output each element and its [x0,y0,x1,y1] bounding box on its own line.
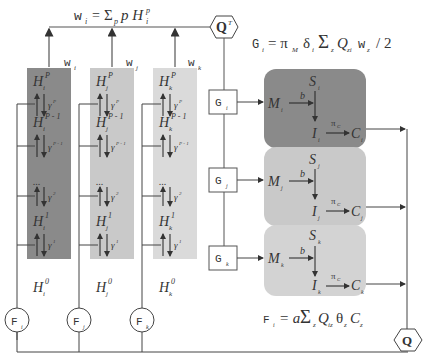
svg-text:C: C [351,126,361,141]
svg-text:γ: γ [48,192,52,202]
svg-text:...: ... [33,176,41,187]
svg-text:δ: δ [303,35,310,51]
svg-text:0: 0 [108,277,112,286]
svg-text:i: i [273,322,275,328]
svg-text:P - 1: P - 1 [115,141,126,146]
svg-text:b: b [300,168,305,179]
svg-text:γ: γ [111,100,115,110]
svg-text:1: 1 [116,239,119,244]
svg-text:p H: p H [120,7,144,23]
svg-text:w: w [64,57,71,69]
svg-text:1: 1 [108,211,112,220]
svg-text:j: j [317,163,320,169]
svg-text:...: ... [96,176,104,187]
svg-text:j: j [82,324,85,330]
qt-hexagon: Q T [210,16,238,38]
svg-text:j: j [225,183,228,189]
svg-text:P: P [52,99,56,104]
svg-text:γ: γ [48,100,52,110]
svg-text:k: k [146,324,149,330]
svg-text:C: C [351,278,361,293]
svg-text:γ: γ [111,142,115,152]
svg-text:P - 1: P - 1 [170,112,186,121]
g-box-k: G k [209,246,237,270]
sector-i: S i M i b I i π C C i [264,69,366,148]
svg-text:Q: Q [402,333,412,348]
svg-text:z: z [312,321,316,329]
svg-text:w: w [188,57,195,69]
svg-text:k: k [226,261,229,267]
svg-text:i: i [43,290,45,298]
svg-text:/ 2: / 2 [376,35,391,51]
svg-text:j: j [105,224,108,232]
svg-text:p: p [145,6,150,15]
f-circle-i: F i [5,308,29,332]
svg-text:i: i [146,17,148,26]
svg-text:b: b [300,90,305,101]
svg-text:C: C [351,204,361,219]
svg-text:G: G [215,175,222,187]
svg-text:k: k [198,64,202,72]
svg-text:P - 1: P - 1 [44,112,60,121]
svg-text:b: b [300,245,305,256]
c-output-lines [366,129,407,330]
svg-text:j: j [105,125,108,133]
svg-text:zi: zi [346,46,352,54]
f-circle-j: F j [67,308,91,332]
svg-text:i: i [43,125,45,133]
svg-text:j: j [280,185,283,191]
svg-text:1: 1 [45,211,49,220]
svg-text:F: F [73,316,80,328]
column-k [153,68,197,259]
svg-text:S: S [309,152,316,167]
svg-text:1: 1 [53,239,56,244]
svg-text:M: M [267,174,281,189]
svg-text:z: z [330,46,334,54]
svg-text:P: P [115,99,119,104]
svg-text:γ: γ [48,142,52,152]
svg-text:P - 1: P - 1 [178,141,189,146]
g-box-i: G i [209,90,237,114]
svg-text:γ: γ [111,240,115,250]
svg-text:z: z [343,321,347,329]
svg-text:j: j [135,64,138,72]
svg-text:= a: = a [279,310,300,326]
svg-text:γ: γ [174,142,178,152]
f-circle-k: F k [130,308,154,332]
svg-text:Σ: Σ [300,306,311,327]
svg-text:P: P [44,71,50,80]
svg-text:F: F [136,316,143,328]
svg-text:Σ: Σ [104,7,113,23]
svg-text:j: j [360,215,363,221]
svg-text:π: π [331,118,336,128]
g-box-j: G j [209,168,237,192]
svg-text:F: F [263,314,270,326]
svg-text:γ: γ [174,100,178,110]
svg-text:Σ: Σ [318,31,329,52]
svg-text:w: w [74,9,82,24]
economic-model-diagram: w i = Σ p p H p i Q T w i w j w k H P i [0,0,431,362]
svg-text:j: j [105,290,108,298]
svg-text:γ: γ [174,192,178,202]
svg-text:z: z [366,46,370,54]
svg-text:...: ... [159,176,167,187]
svg-text:z: z [359,321,363,329]
svg-text:P - 1: P - 1 [107,112,123,121]
svg-text:= π: = π [268,35,288,51]
sector-k: S k M k b I k π C C k [264,225,366,296]
svg-text:k: k [318,239,321,245]
svg-text:i: i [43,224,45,232]
svg-text:S: S [309,228,316,243]
svg-text:θ: θ [336,310,343,326]
svg-text:i: i [262,46,264,54]
svg-text:j: j [105,84,108,92]
svg-text:p: p [113,17,118,26]
f-formula: F i = a Σ z Q iz θ z C z [263,306,363,329]
svg-text:w: w [126,57,133,69]
sector-j: S j M j b I j π C C j [264,147,366,226]
w-formula: w i = Σ p p H p i [74,6,150,26]
svg-text:F: F [11,316,18,328]
svg-text:π: π [331,196,336,206]
svg-text:k: k [281,262,284,268]
svg-text:=: = [92,8,100,23]
